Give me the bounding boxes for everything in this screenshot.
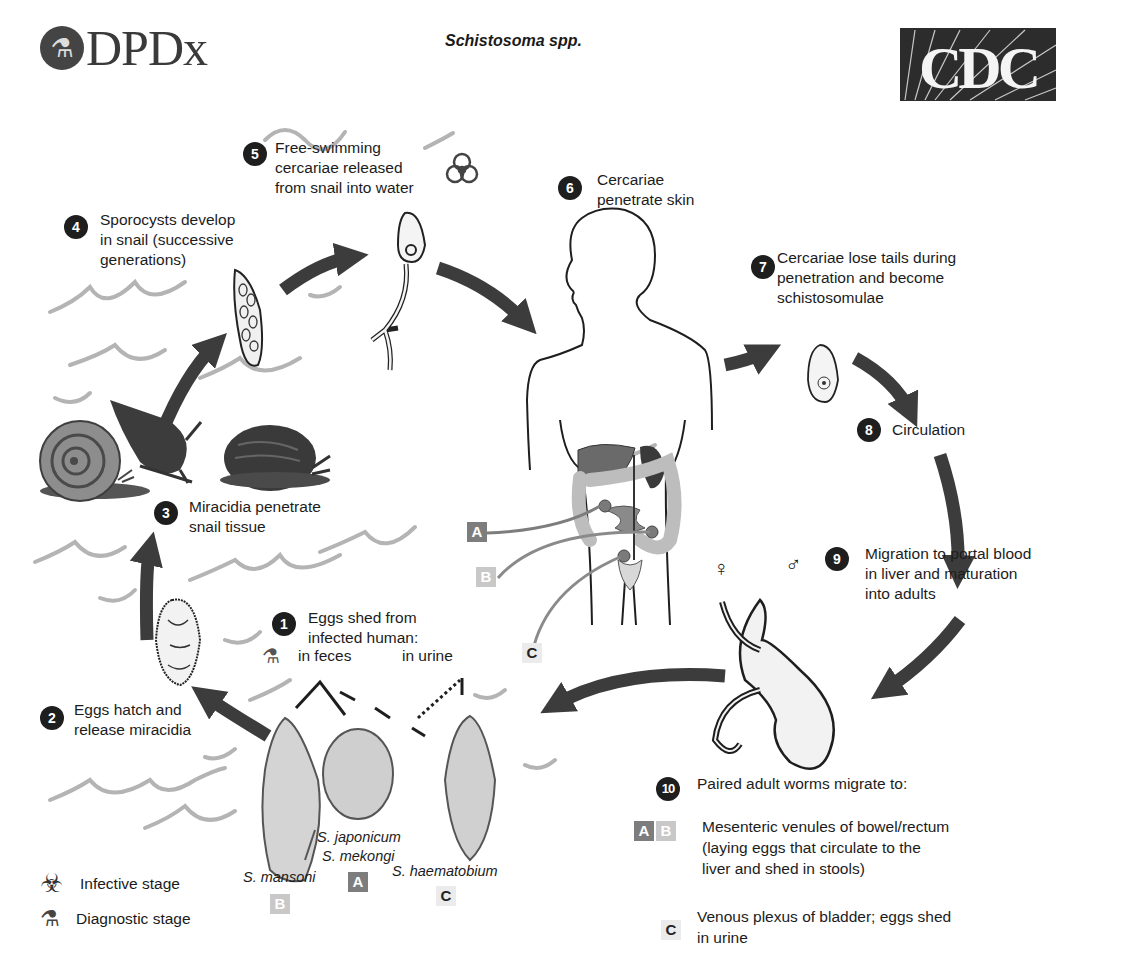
miracidium — [156, 600, 200, 686]
microscope-icon: ⚗ — [40, 26, 84, 70]
species-mansoni-badge: B — [270, 894, 290, 914]
female-symbol: ♀ — [713, 556, 730, 582]
step-10-label: Paired adult worms migrate to: — [697, 774, 907, 794]
page-title: Schistosoma spp. — [445, 32, 582, 50]
egg-source-feces: in feces — [298, 646, 351, 666]
target-1-label: Mesenteric venules of bowel/rectum(layin… — [702, 816, 949, 879]
step-4-badge: 4 — [64, 215, 88, 239]
cercaria — [372, 213, 425, 370]
step-2-badge: 2 — [40, 706, 64, 730]
microscope-icon: ⚗ — [40, 906, 76, 932]
schistosomula — [808, 345, 838, 402]
species-haematobium: S. haematobium — [392, 862, 498, 881]
legend-diagnostic: ⚗ Diagnostic stage — [40, 906, 191, 932]
target-1-badge-a: A — [634, 821, 654, 841]
microscope-icon: ⚗ — [262, 644, 280, 668]
legend-infective: ☣ Infective stage — [40, 868, 180, 899]
egg-source-urine: in urine — [402, 646, 453, 666]
step-1-badge: 1 — [272, 612, 296, 636]
dpdx-logo: ⚗ DPDx — [40, 18, 207, 78]
step-8-badge: 8 — [857, 418, 881, 442]
internal-organs — [578, 444, 675, 590]
svg-text:CDC: CDC — [919, 35, 1037, 101]
sporocyst — [234, 270, 262, 366]
target-2-badge-c: C — [661, 920, 681, 940]
step-1-label: Eggs shed frominfected human: — [308, 608, 418, 648]
step-10-badge: 10 — [656, 777, 680, 801]
step-8-label: Circulation — [892, 420, 965, 440]
body-badge-b: B — [476, 567, 496, 587]
species-mansoni: S. mansoni — [243, 868, 316, 887]
male-symbol: ♂ — [785, 552, 802, 578]
cdc-logo: CDC — [900, 28, 1056, 101]
species-japonicum-mekongi: S. japonicumS. mekongi — [317, 828, 401, 866]
egg-source-lines — [296, 678, 462, 736]
target-2-label: Venous plexus of bladder; eggs shedin ur… — [697, 906, 951, 948]
biohazard-icon — [447, 154, 477, 182]
adult-worm-pair — [715, 600, 834, 769]
body-badge-a: A — [467, 522, 487, 542]
step-3-label: Miracidia penetratesnail tissue — [189, 497, 321, 537]
step-3-badge: 3 — [154, 501, 178, 525]
step-7-badge: 7 — [751, 255, 775, 279]
step-5-label: Free-swimmingcercariae releasedfrom snai… — [275, 138, 414, 198]
step-2-label: Eggs hatch andrelease miracidia — [74, 700, 191, 740]
step-7-label: Cercariae lose tails duringpenetration a… — [777, 248, 956, 308]
step-4-label: Sporocysts developin snail (successivege… — [100, 210, 235, 270]
step-6-label: Cercariaepenetrate skin — [597, 170, 694, 210]
step-5-badge: 5 — [243, 142, 267, 166]
biohazard-icon: ☣ — [40, 868, 80, 899]
body-badge-c: C — [522, 643, 542, 663]
species-haematobium-badge: C — [436, 886, 456, 906]
life-cycle-artwork: CDC — [0, 0, 1121, 976]
dpdx-logo-text: DPDx — [86, 19, 207, 77]
step-6-badge: 6 — [558, 176, 582, 200]
target-1-badge-b: B — [656, 821, 676, 841]
species-japonicum-badge: A — [348, 872, 368, 892]
step-9-label: Migration to portal bloodin liver and ma… — [865, 544, 1031, 604]
snails — [40, 400, 330, 501]
step-9-badge: 9 — [825, 547, 849, 571]
